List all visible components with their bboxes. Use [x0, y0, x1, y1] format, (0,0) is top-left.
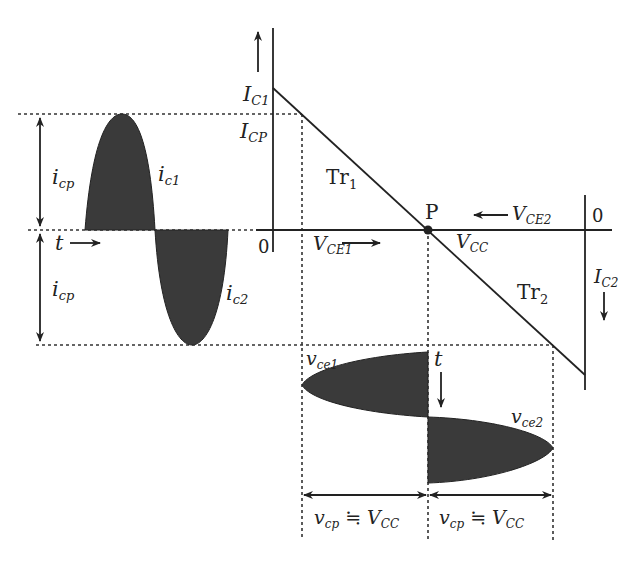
vcc-label: VCC	[456, 230, 488, 255]
ic1-wave	[85, 114, 155, 230]
ic2-wave	[155, 230, 228, 345]
ic1-axis-label: IC1	[242, 82, 270, 108]
vce1-wave-label: vce1	[306, 347, 338, 372]
vce1-label: VCE1	[313, 232, 352, 257]
waveforms	[85, 114, 553, 483]
icp-bottom-label: icp	[52, 277, 75, 303]
point-p-label: P	[425, 200, 438, 224]
operating-point-p	[424, 226, 433, 235]
ic1-wave-label: ic1	[158, 162, 180, 188]
load-line-diagram: IC1 ICP 0 0 Tr1 Tr2 P VCE1 VCE2 VCC IC2 …	[0, 0, 636, 562]
origin-right-label: 0	[592, 205, 603, 226]
vcp-right-label: vcp≒VCC	[439, 506, 524, 531]
origin-left-label: 0	[258, 236, 269, 257]
icp-axis-label: ICP	[239, 119, 267, 145]
ic2-wave-label: ic2	[226, 281, 248, 307]
vcp-left-label: vcp≒VCC	[314, 506, 399, 531]
t-vertical-label: t	[434, 347, 443, 371]
vce2-label: VCE2	[512, 202, 551, 227]
t-horizontal-label: t	[55, 231, 64, 255]
tr2-label: Tr2	[517, 280, 548, 307]
icp-top-label: icp	[52, 165, 75, 191]
vce2-wave-label: vce2	[511, 405, 543, 430]
tr1-label: Tr1	[326, 165, 357, 192]
ic2-axis-label: IC2	[593, 265, 618, 290]
